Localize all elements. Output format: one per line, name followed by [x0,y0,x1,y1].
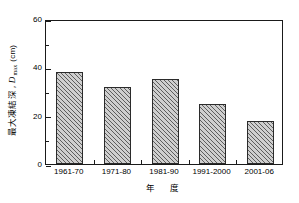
x-axis-tick-label: 1981-90 [149,168,178,176]
y-axis-major-tick [46,69,51,70]
x-axis-tick [141,160,142,164]
x-axis-tick [236,160,237,164]
plot-area [45,20,283,165]
y-axis-tick-label: 40 [26,64,42,72]
y-axis-title-japanese: 最大凍結深 [9,90,18,136]
y-axis-unit: (cm) [10,44,18,61]
y-axis-title-separator: , [9,85,18,88]
y-axis-tick-label: 20 [26,113,42,121]
x-axis-tick [94,160,95,164]
x-axis-tick-label: 1961-70 [54,168,83,176]
y-axis-symbol-subscript: max [13,64,19,75]
x-axis-tick-label: 1971-80 [102,168,131,176]
y-axis-minor-tick [46,45,49,46]
bar-chart-figure: 最大凍結深, Dmax (cm) 0204060 1961-701971-801… [0,0,299,203]
bar [247,121,274,165]
x-axis-tick [189,160,190,164]
bar [199,104,226,164]
y-axis-tick-label: 0 [26,161,42,169]
bar [104,87,131,164]
y-axis-major-tick [46,117,51,118]
y-axis-tick-labels: 0204060 [24,0,42,203]
y-axis-title: 最大凍結深, Dmax (cm) [0,0,26,180]
y-axis-tick-label: 60 [26,16,42,24]
y-axis-minor-tick [46,141,49,142]
x-axis-tick-labels: 1961-701971-801981-901991-20002001-06 [45,168,283,182]
y-axis-major-tick [46,166,51,167]
bar [56,72,83,164]
y-axis-minor-tick [46,93,49,94]
y-axis-symbol: D [9,76,18,83]
x-axis-tick-label: 2001-06 [245,168,274,176]
bar [152,79,179,164]
y-axis-major-tick [46,21,51,22]
x-axis-tick-label: 1991-2000 [192,168,230,176]
x-axis-title: 年 度 [45,184,283,193]
